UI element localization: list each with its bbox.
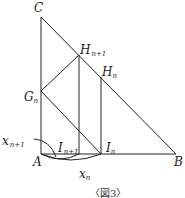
label-c: C: [34, 1, 43, 15]
geometry-diagram: C A B Hn+1 Hn Gn In+1 In xn+1 xn 〈図3〉: [0, 0, 185, 198]
label-g-n: Gn: [24, 90, 39, 105]
label-h-n1: Hn+1: [79, 43, 106, 58]
label-x-n: xn: [79, 167, 91, 182]
label-i-n: In: [105, 141, 116, 156]
label-h-n: Hn: [101, 65, 117, 80]
side-cb: [41, 17, 176, 154]
figure-caption: 〈図3〉: [90, 188, 126, 198]
segment-gn-in: [41, 91, 101, 154]
label-b: B: [173, 155, 183, 169]
label-i-n1: In+1: [57, 141, 79, 156]
segment-gn-hn1: [41, 55, 79, 91]
label-x-n1: xn+1: [2, 134, 25, 149]
label-a: A: [32, 155, 42, 169]
